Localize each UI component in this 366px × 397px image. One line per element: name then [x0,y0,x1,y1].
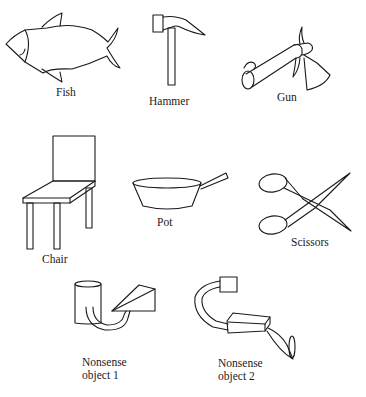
chair-label: Chair [42,253,68,266]
chair-drawing [23,136,95,249]
line-drawings-canvas [0,0,366,397]
scissors-drawing [258,172,351,236]
nonsense-object-2-label-line2: object 2 [218,370,263,383]
nonsense-object-1-label: Nonsense object 1 [82,356,127,382]
nonsense-object-2-drawing [195,277,295,359]
pot-drawing [133,173,228,209]
fish-drawing [6,13,120,82]
nonsense-object-2-label: Nonsense object 2 [218,357,263,383]
nonsense-object-2-label-line1: Nonsense [218,357,263,370]
hammer-drawing [153,15,205,85]
nonsense-object-1-label-line1: Nonsense [82,356,127,369]
fish-label: Fish [56,86,76,99]
scissors-label: Scissors [291,236,329,249]
hammer-label: Hammer [149,95,189,108]
nonsense-object-1-drawing [75,281,155,330]
gun-drawing [242,27,330,90]
gun-label: Gun [277,91,297,104]
nonsense-object-1-label-line2: object 1 [82,369,127,382]
pot-label: Pot [157,216,172,229]
